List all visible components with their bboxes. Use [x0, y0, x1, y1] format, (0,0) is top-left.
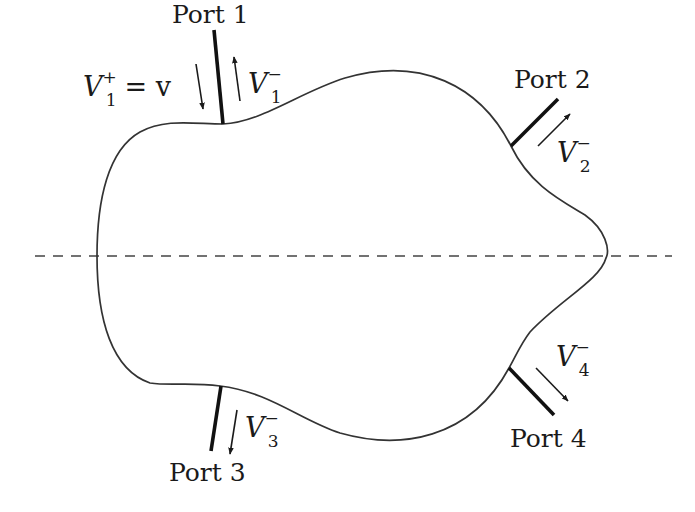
port-2: Port 2 V−2 [511, 65, 591, 176]
port-1-reflected-wave-label: V−1 [248, 64, 282, 107]
port-1-terminal-bar [214, 30, 223, 124]
port-3-label: Port 3 [169, 458, 246, 487]
port-2-label: Port 2 [514, 65, 591, 94]
port-3: Port 3 V−3 [169, 386, 279, 487]
port-4-reflected-wave-label: V−4 [556, 337, 590, 380]
port-4-reflected-arrow-icon [536, 368, 568, 401]
port-4-terminal-bar [509, 368, 554, 415]
port-4: Port 4 V−4 [509, 337, 590, 453]
port-4-label: Port 4 [510, 424, 587, 453]
four-port-network-diagram: Port 1 V+1= v V−1 Port 2 V−2 Port 3 V−3 … [0, 0, 695, 512]
port-1-reflected-arrow-icon [234, 57, 240, 101]
port-1-label: Port 1 [172, 0, 249, 29]
port-3-reflected-wave-label: V−3 [245, 408, 279, 451]
port-3-reflected-arrow-icon [230, 410, 237, 454]
port-1-incident-arrow-icon [196, 64, 203, 109]
port-1: Port 1 V+1= v V−1 [83, 0, 282, 124]
port-3-terminal-bar [211, 386, 221, 451]
port-2-reflected-wave-label: V−2 [557, 133, 591, 176]
port-2-terminal-bar [511, 99, 558, 146]
port-1-incident-wave-label: V+1= v [83, 67, 172, 110]
